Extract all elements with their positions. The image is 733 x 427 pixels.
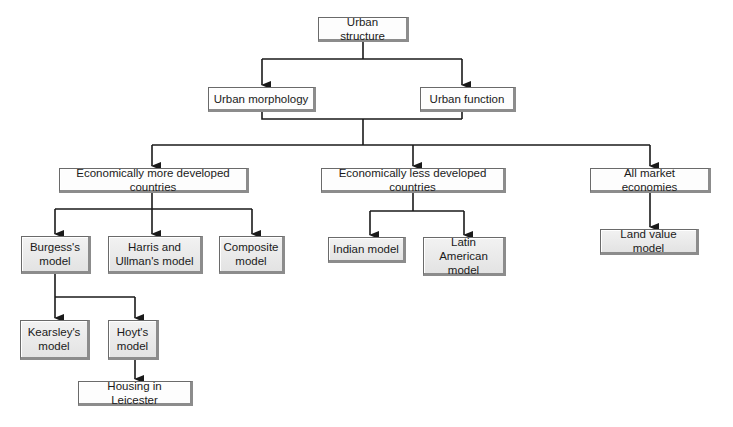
node-burgess-model: Burgess's model — [21, 236, 91, 274]
node-label: Urban structure — [319, 15, 406, 43]
node-label: Hoyt's model — [113, 325, 153, 353]
node-all-market-economies: All market economies — [590, 168, 711, 193]
node-label: Composite model — [220, 240, 283, 268]
node-economically-less-developed: Economically less developed countries — [321, 168, 506, 193]
node-harris-ullman-model: Harris and Ullman's model — [108, 236, 203, 274]
node-label: Housing in Leicester — [79, 379, 190, 407]
node-label: Burgess's model — [26, 240, 84, 268]
node-urban-structure: Urban structure — [318, 17, 409, 42]
node-composite-model: Composite model — [219, 236, 285, 274]
node-label: Economically more developed countries — [60, 166, 246, 194]
node-label: Economically less developed countries — [322, 166, 503, 194]
node-label: Urban function — [426, 92, 509, 106]
node-label: Kearsley's model — [24, 325, 85, 353]
node-label: All market economies — [591, 166, 708, 194]
urban-structure-diagram: Urban structure Urban morphology Urban f… — [0, 0, 733, 427]
node-label: Latin American model — [424, 235, 503, 277]
node-indian-model: Indian model — [328, 237, 406, 263]
node-urban-morphology: Urban morphology — [208, 87, 316, 112]
node-kearsley-model: Kearsley's model — [20, 320, 90, 360]
node-economically-more-developed: Economically more developed countries — [59, 168, 249, 193]
node-label: Land value model — [601, 227, 696, 255]
node-housing-in-leicester: Housing in Leicester — [78, 381, 193, 406]
node-urban-function: Urban function — [420, 87, 516, 112]
node-label: Indian model — [329, 242, 403, 256]
node-hoyt-model: Hoyt's model — [108, 320, 159, 360]
node-land-value-model: Land value model — [600, 229, 699, 255]
node-latin-american-model: Latin American model — [423, 237, 506, 276]
node-label: Urban morphology — [210, 92, 313, 106]
node-label: Harris and Ullman's model — [111, 240, 197, 268]
connector-lines — [0, 0, 733, 427]
